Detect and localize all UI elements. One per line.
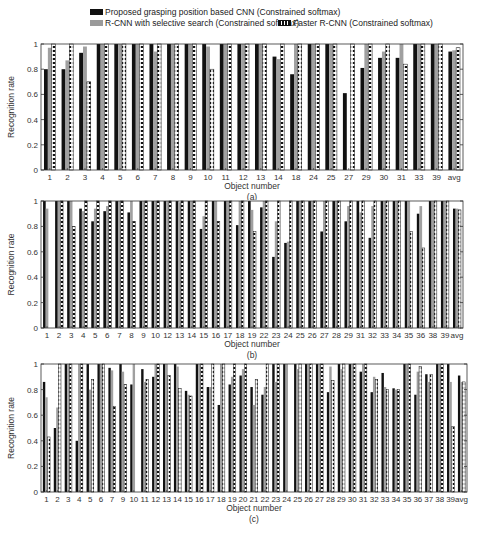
chart-c: 00.20.40.60.8112345679101112131415161718… bbox=[0, 359, 486, 534]
bar-faster-rcnn bbox=[452, 427, 454, 492]
legend: Proposed grasping position based CNN (Co… bbox=[0, 0, 486, 30]
bar-faster-rcnn bbox=[205, 201, 208, 328]
x-tick-label: 10 bbox=[151, 331, 160, 340]
y-tick-label: 1 bbox=[34, 197, 39, 206]
y-tick-label: 0 bbox=[34, 488, 39, 497]
bar-proposed bbox=[236, 225, 239, 328]
bar-faster-rcnn bbox=[113, 406, 115, 492]
bar-rcnn bbox=[435, 44, 439, 170]
bar-faster-rcnn bbox=[192, 44, 196, 170]
bar-faster-rcnn bbox=[408, 364, 410, 492]
bar-proposed bbox=[344, 221, 347, 328]
bar-rcnn bbox=[130, 201, 133, 328]
bar-rcnn bbox=[154, 364, 156, 492]
bar-proposed bbox=[54, 428, 56, 492]
bar-proposed bbox=[325, 44, 329, 170]
legend-item-faster-rcnn: Faster R-CNN (Constrained softmax) bbox=[278, 18, 433, 28]
bar-proposed bbox=[140, 201, 143, 328]
x-tick-label: 1 bbox=[48, 173, 53, 182]
bar-faster-rcnn bbox=[222, 364, 224, 492]
bar-faster-rcnn bbox=[102, 364, 104, 492]
bar-faster-rcnn bbox=[456, 48, 460, 170]
x-tick-label: 5 bbox=[88, 495, 93, 504]
bar-faster-rcnn bbox=[446, 201, 449, 328]
bar-proposed bbox=[305, 364, 307, 492]
bar-rcnn bbox=[364, 44, 368, 170]
bar-proposed bbox=[91, 221, 94, 328]
bar-faster-rcnn bbox=[386, 390, 388, 492]
bar-proposed bbox=[132, 44, 136, 170]
x-tick-label: 39 bbox=[440, 331, 449, 340]
bar-rcnn bbox=[275, 221, 278, 328]
legend-swatch-black bbox=[90, 9, 103, 15]
bar-proposed bbox=[316, 364, 318, 492]
bar-proposed bbox=[79, 209, 82, 328]
bar-proposed bbox=[320, 231, 323, 328]
x-tick-label: 10 bbox=[204, 173, 213, 182]
bar-proposed bbox=[405, 201, 408, 328]
bar-rcnn bbox=[82, 211, 85, 328]
bar-rcnn bbox=[384, 387, 386, 492]
bar-proposed bbox=[103, 211, 106, 328]
bar-proposed bbox=[294, 364, 296, 492]
x-tick-label: 7 bbox=[117, 331, 122, 340]
bar-rcnn bbox=[178, 202, 181, 328]
x-tick-label: 6 bbox=[135, 173, 140, 182]
bar-faster-rcnn bbox=[122, 44, 126, 170]
x-tick-label: 34 bbox=[392, 495, 401, 504]
bar-proposed bbox=[67, 201, 70, 328]
x-tick-label: 37 bbox=[424, 495, 433, 504]
bar-faster-rcnn bbox=[441, 364, 443, 492]
x-tick-label: 27 bbox=[315, 495, 324, 504]
x-tick-label: 32 bbox=[370, 495, 379, 504]
y-axis-label: Recognition rate bbox=[6, 397, 16, 459]
x-tick-label: 4 bbox=[77, 495, 82, 504]
bar-proposed bbox=[44, 69, 48, 170]
bar-faster-rcnn bbox=[80, 364, 82, 492]
bar-faster-rcnn bbox=[277, 364, 279, 492]
x-tick-label: 33 bbox=[381, 495, 390, 504]
bar-proposed bbox=[196, 364, 198, 492]
bar-faster-rcnn bbox=[463, 382, 465, 492]
x-tick-label: 38 bbox=[428, 331, 437, 340]
chart-a: 00.20.40.60.8112345678910111213141824252… bbox=[0, 30, 486, 200]
bar-rcnn bbox=[263, 201, 266, 328]
x-tick-label: 8 bbox=[171, 173, 176, 182]
x-tick-label: 16 bbox=[195, 495, 204, 504]
legend-label: R-CNN with selective search (Constrained… bbox=[105, 18, 299, 28]
x-tick-label: 4 bbox=[100, 173, 105, 182]
x-tick-label: 24 bbox=[284, 331, 293, 340]
bar-faster-rcnn bbox=[59, 364, 61, 492]
x-tick-label: 36 bbox=[416, 331, 425, 340]
bar-proposed bbox=[79, 53, 83, 170]
bar-rcnn bbox=[171, 44, 175, 170]
bar-rcnn bbox=[395, 201, 398, 328]
bar-rcnn bbox=[307, 364, 309, 492]
chart-b: 00.20.40.60.8112345678910121314151617181… bbox=[0, 197, 486, 367]
bar-rcnn bbox=[136, 44, 140, 170]
bar-proposed bbox=[371, 392, 373, 492]
bar-faster-rcnn bbox=[179, 388, 181, 492]
bar-proposed bbox=[176, 201, 179, 328]
bar-faster-rcnn bbox=[169, 201, 172, 328]
x-tick-label: avg bbox=[448, 173, 461, 182]
bar-rcnn bbox=[100, 364, 102, 492]
y-tick-label: 0.8 bbox=[27, 386, 39, 395]
bar-proposed bbox=[436, 364, 438, 492]
bar-proposed bbox=[349, 364, 351, 492]
bar-rcnn bbox=[133, 364, 135, 492]
bar-faster-rcnn bbox=[157, 364, 159, 492]
bar-rcnn bbox=[340, 369, 342, 492]
bar-faster-rcnn bbox=[368, 44, 372, 170]
bar-faster-rcnn bbox=[362, 201, 365, 328]
x-tick-label: 33 bbox=[415, 173, 424, 182]
bar-proposed bbox=[119, 364, 121, 492]
x-tick-label: 25 bbox=[296, 331, 305, 340]
bar-proposed bbox=[403, 364, 405, 492]
bar-faster-rcnn bbox=[290, 201, 293, 328]
bar-faster-rcnn bbox=[277, 201, 280, 328]
x-tick-label: 35 bbox=[404, 331, 413, 340]
bar-rcnn bbox=[264, 387, 266, 492]
bar-faster-rcnn bbox=[85, 201, 88, 328]
x-tick-label: 6 bbox=[99, 495, 104, 504]
